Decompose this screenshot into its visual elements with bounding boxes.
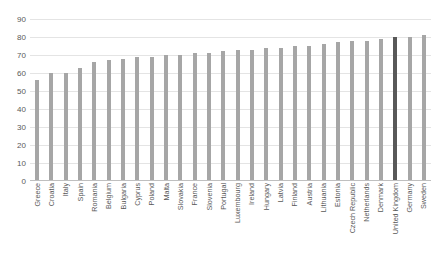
bar-slot [360, 19, 374, 181]
bar-slot [231, 19, 245, 181]
bar[interactable] [35, 80, 39, 181]
bar[interactable] [250, 50, 254, 181]
bar-slot [87, 19, 101, 181]
x-axis-tick-label: Slovenia [206, 183, 213, 211]
x-axis-tick-label: Luxembourg [234, 183, 241, 223]
x-axis-tick-label: Poland [148, 183, 155, 205]
x-axis-tick: Austria [302, 183, 316, 253]
x-axis-tick-label: Austria [306, 183, 313, 205]
bar[interactable] [178, 55, 182, 181]
bar[interactable] [350, 41, 354, 181]
x-axis-tick-label: Netherlands [363, 183, 370, 222]
bar-slot [417, 19, 431, 181]
x-axis-tick-label: Romania [91, 183, 98, 212]
x-axis-tick-label: United Kingdom [392, 183, 399, 234]
bar-slot [374, 19, 388, 181]
bar[interactable] [92, 62, 96, 181]
x-axis-tick: United Kingdom [388, 183, 402, 253]
bar-slot [403, 19, 417, 181]
x-axis-tick: Latvia [274, 183, 288, 253]
bar[interactable] [393, 37, 397, 181]
bar[interactable] [150, 57, 154, 181]
bar-slot [331, 19, 345, 181]
x-axis-tick: Italy [59, 183, 73, 253]
bar[interactable] [293, 46, 297, 181]
bar[interactable] [221, 51, 225, 181]
bar-slot [59, 19, 73, 181]
x-axis-tick: Slovenia [202, 183, 216, 253]
x-axis-tick: Netherlands [360, 183, 374, 253]
bar[interactable] [236, 50, 240, 181]
x-axis-tick: Romania [87, 183, 101, 253]
x-axis-tick-label: Bulgaria [120, 183, 127, 209]
bar-slot [302, 19, 316, 181]
bar[interactable] [164, 55, 168, 181]
bar[interactable] [264, 48, 268, 181]
x-axis-tick-label: Sweden [420, 183, 427, 209]
x-axis-tick-label: Lithuania [320, 183, 327, 212]
bar-slot [245, 19, 259, 181]
bar[interactable] [279, 48, 283, 181]
x-axis-tick: Lithuania [317, 183, 331, 253]
bar-slot [130, 19, 144, 181]
bar[interactable] [64, 73, 68, 181]
x-axis-tick: Bulgaria [116, 183, 130, 253]
bar-slot [102, 19, 116, 181]
x-axis-tick: Poland [145, 183, 159, 253]
bar-slot [188, 19, 202, 181]
bar-slot [73, 19, 87, 181]
bar[interactable] [121, 59, 125, 181]
bar[interactable] [336, 42, 340, 181]
x-axis-tick: Estonia [331, 183, 345, 253]
bar-slot [388, 19, 402, 181]
bar[interactable] [193, 53, 197, 181]
y-axis-tick-label: 10 [17, 159, 26, 168]
bar-slot [345, 19, 359, 181]
bar[interactable] [365, 41, 369, 181]
x-axis-tick-label: Hungary [263, 183, 270, 210]
y-axis-tick-label: 0 [22, 177, 26, 186]
x-axis-tick-label: Portugal [220, 183, 227, 210]
bar[interactable] [379, 39, 383, 181]
bar-slot [259, 19, 273, 181]
x-axis-tick-label: Slovakia [177, 183, 184, 210]
y-axis-tick-label: 20 [17, 141, 26, 150]
plot-area [30, 19, 431, 181]
bar[interactable] [107, 60, 111, 181]
axis-baseline [30, 180, 431, 181]
bar-slot [173, 19, 187, 181]
x-axis-tick: Cyprus [130, 183, 144, 253]
x-axis-tick-label: Latvia [277, 183, 284, 202]
x-axis-tick-label: Estonia [334, 183, 341, 207]
x-axis-tick: Malta [159, 183, 173, 253]
x-axis-tick-label: Cyprus [134, 183, 141, 206]
bar[interactable] [322, 44, 326, 181]
bar[interactable] [135, 57, 139, 181]
bar[interactable] [49, 73, 53, 181]
x-axis-tick: Hungary [259, 183, 273, 253]
bar[interactable] [408, 37, 412, 181]
x-axis-tick: Slovakia [173, 183, 187, 253]
x-axis-tick-label: Belgium [105, 183, 112, 209]
x-axis-tick-label: Malta [163, 183, 170, 201]
x-axis-tick: Belgium [102, 183, 116, 253]
bar[interactable] [207, 53, 211, 181]
bar-slot [317, 19, 331, 181]
y-axis-tick-label: 50 [17, 87, 26, 96]
x-axis-tick-label: Denmark [377, 183, 384, 212]
bar-slot [30, 19, 44, 181]
bar[interactable] [422, 35, 426, 181]
x-axis-tick: France [188, 183, 202, 253]
bar-slot [288, 19, 302, 181]
x-axis-tick: Denmark [374, 183, 388, 253]
bar[interactable] [307, 46, 311, 181]
bar[interactable] [78, 68, 82, 181]
bar-slot [216, 19, 230, 181]
x-axis-tick: Luxembourg [231, 183, 245, 253]
x-axis-tick: Finland [288, 183, 302, 253]
x-axis-tick: Ireland [245, 183, 259, 253]
bar-series [30, 19, 431, 181]
x-axis-tick-label: Spain [77, 183, 84, 201]
x-axis-tick-label: Italy [62, 183, 69, 196]
x-axis-tick-label: Finland [291, 183, 298, 207]
